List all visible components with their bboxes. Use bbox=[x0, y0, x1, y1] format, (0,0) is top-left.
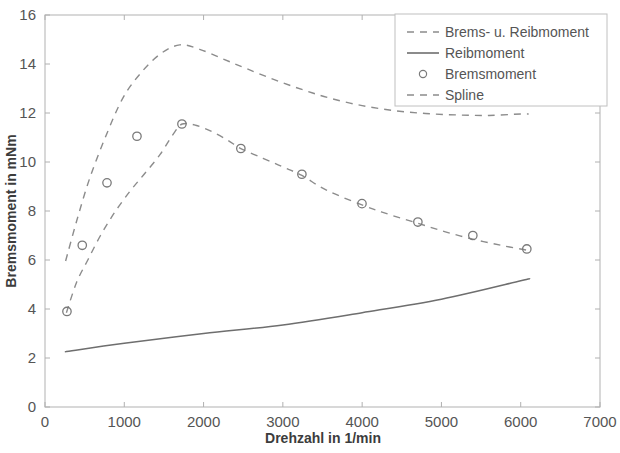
data-point-marker bbox=[414, 218, 422, 226]
y-tick-label: 8 bbox=[28, 202, 36, 219]
y-tick-label: 6 bbox=[28, 251, 36, 268]
chart-canvas: 01000200030004000500060007000 0246810121… bbox=[0, 0, 620, 453]
data-point-marker bbox=[133, 132, 141, 140]
y-tick-label: 16 bbox=[19, 6, 36, 23]
chart-legend: Brems- u. ReibmomentReibmomentBremsmomen… bbox=[395, 14, 607, 106]
y-tick-label: 2 bbox=[28, 349, 36, 366]
x-tick-label: 7000 bbox=[583, 413, 616, 430]
legend-entry-label: Spline bbox=[445, 87, 484, 103]
data-markers-layer bbox=[63, 120, 531, 316]
x-axis-tick-labels: 01000200030004000500060007000 bbox=[41, 413, 617, 430]
data-point-marker bbox=[469, 231, 477, 239]
legend-entry-label: Brems- u. Reibmoment bbox=[445, 24, 589, 40]
y-tick-label: 14 bbox=[19, 55, 36, 72]
x-tick-label: 6000 bbox=[504, 413, 537, 430]
legend-entry-label: Bremsmoment bbox=[445, 66, 536, 82]
data-point-marker bbox=[103, 179, 111, 187]
y-tick-label: 0 bbox=[28, 398, 36, 415]
data-point-marker bbox=[78, 241, 86, 249]
x-tick-label: 5000 bbox=[425, 413, 458, 430]
series-line bbox=[65, 279, 530, 352]
x-axis-title: Drehzahl in 1/min bbox=[265, 430, 381, 446]
legend-entry-label: Reibmoment bbox=[445, 45, 524, 61]
y-axis-title: Bremsmoment in mNm bbox=[3, 134, 19, 287]
x-tick-label: 3000 bbox=[266, 413, 299, 430]
y-tick-label: 12 bbox=[19, 104, 36, 121]
series-line bbox=[66, 123, 526, 312]
x-tick-label: 1000 bbox=[108, 413, 141, 430]
x-tick-label: 2000 bbox=[187, 413, 220, 430]
y-axis-tick-labels: 0246810121416 bbox=[19, 6, 36, 415]
y-tick-label: 4 bbox=[28, 300, 36, 317]
x-tick-label: 0 bbox=[41, 413, 49, 430]
y-tick-label: 10 bbox=[19, 153, 36, 170]
x-tick-label: 4000 bbox=[345, 413, 378, 430]
chart-figure: 01000200030004000500060007000 0246810121… bbox=[0, 0, 620, 453]
